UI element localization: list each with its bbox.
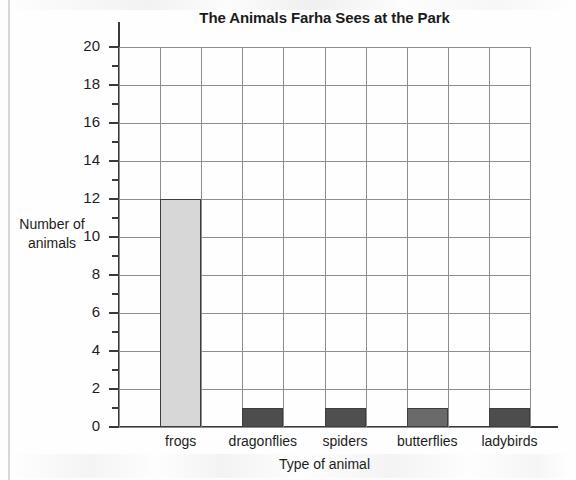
chart-title: The Animals Farha Sees at the Park [119,9,530,26]
gridline-vertical [530,47,531,427]
y-tick-major [109,274,119,276]
gridline-vertical [119,47,120,427]
y-tick-label: 6 [64,303,100,320]
y-tick-major [109,198,119,200]
gridline-vertical [407,47,408,427]
y-tick-minor [112,65,119,67]
y-tick-major [109,84,119,86]
y-tick-label: 16 [64,113,100,130]
bar [325,408,366,427]
y-tick-minor [112,141,119,143]
y-tick-label: 14 [64,151,100,168]
y-tick-major [109,350,119,352]
gridline-vertical [489,47,490,427]
gridline-vertical [325,47,326,427]
y-axis-title-line: Number of [2,215,102,234]
gridline-vertical [448,47,449,427]
y-tick-minor [112,369,119,371]
y-tick-major [109,236,119,238]
bar [489,408,530,427]
gridline-horizontal [119,427,530,428]
y-tick-minor [112,331,119,333]
y-tick-label: 4 [64,341,100,358]
y-tick-major [109,46,119,48]
y-tick-major [109,388,119,390]
bar [160,199,201,427]
worksheet-page: The Animals Farha Sees at the Park 02468… [0,0,576,480]
y-tick-minor [112,293,119,295]
gridline-vertical [201,47,202,427]
gridline-vertical [242,47,243,427]
y-tick-major [109,312,119,314]
y-tick-minor [112,217,119,219]
y-axis-title: Number ofanimals [2,215,102,253]
gridline-vertical [283,47,284,427]
y-axis-title-line: animals [2,234,102,253]
y-tick-label: 12 [64,189,100,206]
y-tick-major [109,426,119,428]
bar [407,408,448,427]
plot-area [119,47,530,427]
y-tick-minor [112,179,119,181]
y-tick-label: 18 [64,75,100,92]
x-axis-title: Type of animal [119,456,530,472]
y-tick-label: 2 [64,379,100,396]
gridline-vertical [366,47,367,427]
y-tick-minor [112,103,119,105]
y-tick-major [109,122,119,124]
y-tick-label: 8 [64,265,100,282]
y-tick-minor [112,407,119,409]
y-tick-label: 0 [64,417,100,434]
category-label-ladybirds: ladybirds [449,433,569,449]
y-tick-label: 20 [64,37,100,54]
bar [242,408,283,427]
y-tick-major [109,160,119,162]
y-tick-minor [112,255,119,257]
